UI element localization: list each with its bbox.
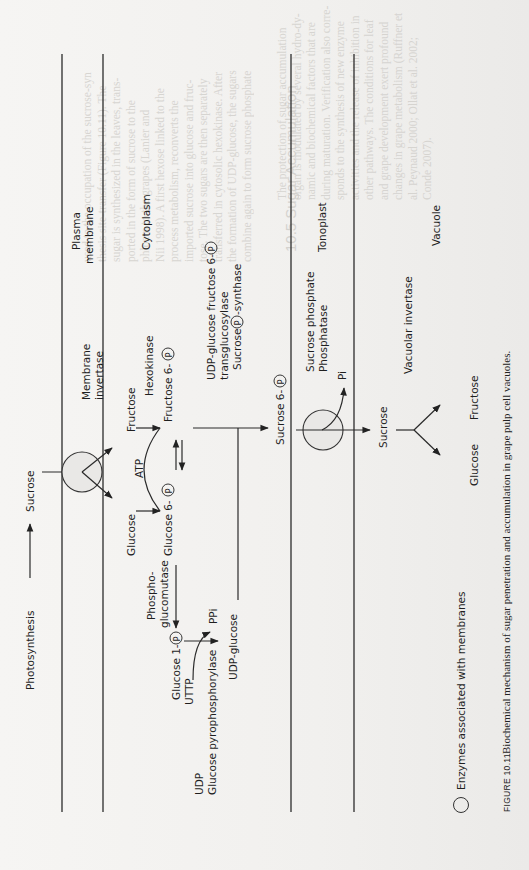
photosynthesis-label: Photosynthesis: [24, 611, 36, 690]
plasma-membrane-lines: [62, 54, 103, 812]
svg-text:glucomutase: glucomutase: [158, 560, 170, 628]
svg-text:Phospho-: Phospho-: [145, 571, 157, 620]
legend: Enzymes associated with membranes: [454, 591, 469, 812]
cytoplasm-label: Cytoplasm: [140, 194, 152, 250]
svg-text:Glucose 1-: Glucose 1-: [170, 644, 182, 700]
svg-text:membrane: membrane: [83, 207, 95, 264]
svg-text:UDP-glucose fructose 6-: UDP-glucose fructose 6-: [205, 254, 217, 380]
figure-caption-text: Biochemical mechanism of sugar penetrati…: [500, 351, 512, 754]
phosphoglucomutase-label: Phospho- glucomutase: [145, 560, 170, 628]
vacuole-glucose-label: Glucose: [468, 444, 480, 486]
plasma-membrane-label: Plasma membrane: [70, 207, 95, 264]
transglucosylase-label: UDP-glucose fructose 6- P transglucosyla…: [205, 242, 243, 380]
glucose-6p-label: Glucose 6- P: [162, 484, 174, 556]
svg-text:invertase: invertase: [93, 351, 105, 400]
sucrose-vacuole-label: Sucrose: [377, 406, 389, 448]
textbook-page: used to the occupation of the sucrose-sy…: [0, 0, 529, 870]
hexokinase-label: Hexokinase: [143, 335, 155, 396]
svg-text:P: P: [164, 352, 174, 357]
pi-label: Pi: [336, 371, 348, 380]
svg-text:Plasma: Plasma: [70, 212, 82, 250]
svg-text:Sucrose phosphate: Sucrose phosphate: [304, 272, 316, 372]
svg-text:P: P: [164, 488, 174, 493]
atp-curve: [144, 428, 160, 511]
to-glucose-arrow: [414, 430, 440, 455]
svg-text:-synthase: -synthase: [231, 264, 243, 315]
svg-text:Glucose pyrophosphorylase: Glucose pyrophosphorylase: [206, 650, 218, 795]
atp-label: ATP: [133, 459, 145, 478]
membrane-invertase-label: Membrane invertase: [80, 344, 105, 400]
svg-text:Membrane: Membrane: [80, 344, 92, 400]
udp-glucose-pyrophosphorylase-label: UDP Glucose pyrophosphorylase: [193, 650, 218, 795]
svg-text:Sucrose 6-: Sucrose 6-: [274, 389, 286, 445]
legend-label: Enzymes associated with membranes: [455, 591, 467, 790]
legend-enzyme-circle-icon: [454, 798, 469, 813]
sucrose-phosphate-phosphatase-label: Sucrose phosphate Phosphatase: [304, 272, 329, 372]
vacuole-fructose-label: Fructose: [468, 376, 480, 421]
sucrose-6p-label: Sucrose 6- P: [274, 375, 286, 445]
sugar-pathway-diagram: Plasma membrane Cytoplasm Tonoplast Vacu…: [0, 0, 529, 870]
svg-text:UDP: UDP: [193, 773, 205, 795]
svg-text:Phosphatase: Phosphatase: [317, 305, 329, 372]
svg-text:P: P: [233, 320, 243, 325]
glucose-label: Glucose: [125, 514, 137, 556]
udp-glucose-label: UDP-glucose: [227, 614, 239, 680]
to-fructose-arrow: [414, 405, 440, 430]
figure-number: FIGURE 10.11: [502, 753, 512, 812]
svg-text:transglucosylase: transglucosylase: [218, 292, 230, 380]
uttp-label: UTTP: [183, 678, 195, 705]
ppi-label: PPi: [207, 609, 219, 624]
glucose-1p-label: Glucose 1- P: [170, 632, 182, 700]
svg-text:Sucrose: Sucrose: [231, 328, 243, 370]
svg-text:Fructose 6-: Fructose 6-: [162, 363, 174, 422]
svg-text:Glucose 6-: Glucose 6-: [162, 500, 174, 556]
svg-text:P: P: [172, 636, 182, 641]
sucrose-apoplast-label: Sucrose: [24, 470, 36, 512]
figure-caption: FIGURE 10.11 Biochemical mechanism of su…: [500, 351, 512, 812]
tonoplast-label: Tonoplast: [316, 202, 328, 253]
fructose-label: Fructose: [125, 388, 137, 433]
svg-text:P: P: [207, 246, 217, 251]
fructose-6p-label: Fructose 6- P: [162, 348, 174, 422]
svg-text:P: P: [276, 379, 286, 384]
vacuole-label: Vacuole: [430, 205, 442, 246]
vacuolar-invertase-label: Vacuolar invertase: [402, 276, 414, 374]
